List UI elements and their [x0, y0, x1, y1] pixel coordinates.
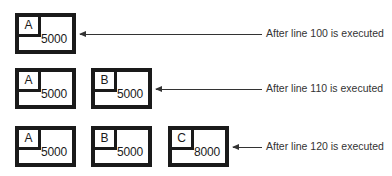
variable-value: 5000 — [117, 87, 143, 101]
state-row-line-120: A 5000 B 5000 C 8000 After line 120 is e… — [0, 126, 392, 168]
state-row-line-100: A 5000 After line 100 is executed — [0, 13, 392, 55]
state-row-line-110: A 5000 B 5000 After line 110 is executed — [0, 68, 392, 110]
variable-name: B — [95, 72, 117, 92]
variable-box-a: A 5000 — [15, 13, 76, 54]
variable-value: 8000 — [194, 145, 220, 159]
variable-name: A — [19, 17, 41, 37]
caption: After line 100 is executed — [266, 27, 384, 39]
variable-value: 5000 — [41, 145, 67, 159]
variable-name: B — [95, 130, 117, 150]
variable-value: 5000 — [117, 145, 143, 159]
variable-name: A — [19, 130, 41, 150]
caption: After line 120 is executed — [266, 140, 384, 152]
caption: After line 110 is executed — [266, 82, 383, 94]
variable-value: 5000 — [41, 32, 67, 46]
variable-value: 5000 — [41, 87, 67, 101]
variable-box-b: B 5000 — [91, 126, 152, 167]
variable-name: C — [172, 130, 194, 150]
variable-box-c: C 8000 — [168, 126, 229, 167]
variable-box-a: A 5000 — [15, 126, 76, 167]
variable-box-a: A 5000 — [15, 68, 76, 109]
variable-name: A — [19, 72, 41, 92]
arrow-left-icon — [233, 147, 262, 148]
variable-box-b: B 5000 — [91, 68, 152, 109]
arrow-left-icon — [80, 34, 262, 35]
arrow-left-icon — [156, 89, 262, 90]
